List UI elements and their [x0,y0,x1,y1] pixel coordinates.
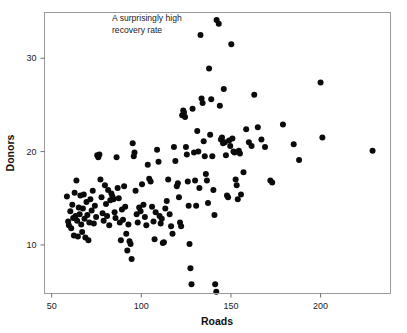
data-point [161,239,167,245]
data-point [106,222,112,228]
data-point [90,188,96,194]
data-point [262,144,268,150]
y-tick-label: 20 [26,147,36,157]
data-point [156,159,162,165]
data-point [165,177,171,183]
data-point [190,106,196,112]
data-point [154,147,160,153]
data-point [204,178,210,184]
plot-background [0,0,407,333]
data-point [178,223,184,229]
data-point [319,135,325,141]
data-point [183,144,189,150]
data-point [240,169,246,175]
data-point [112,209,118,215]
data-point [255,124,261,130]
data-point [291,141,297,147]
data-point [133,188,139,194]
data-point [97,177,103,183]
data-point [92,203,98,209]
data-point [122,204,128,210]
data-point [206,66,212,72]
data-point [196,185,202,191]
data-point [112,215,118,221]
data-point [176,194,182,200]
data-point [129,256,135,262]
data-point [168,223,174,229]
data-point [140,202,146,208]
y-axis-title: Donors [4,134,16,171]
data-point [78,221,84,227]
data-point [243,126,249,132]
data-point [84,212,90,218]
data-point [228,41,234,47]
data-point [67,208,73,214]
data-point [152,236,158,242]
data-point [189,281,195,287]
data-point [212,281,218,287]
data-point [93,214,99,220]
data-point [186,203,192,209]
data-point [85,237,91,243]
data-point [120,217,126,223]
data-point [118,237,124,243]
x-tick-label: 200 [313,301,328,311]
data-point [159,216,165,222]
data-point [229,136,235,142]
annotation-line-2: recovery rate [112,25,162,35]
data-point [130,140,136,146]
data-point [280,122,286,128]
data-point [138,208,144,214]
data-point [139,181,145,187]
data-point [192,178,198,184]
data-point [145,162,151,168]
data-point [211,212,217,218]
data-point [128,241,134,247]
x-tick-label: 150 [223,301,238,311]
data-point [171,144,177,150]
data-point [149,204,155,210]
data-point [209,153,215,159]
x-tick-label: 50 [47,301,57,311]
data-point [238,192,244,198]
data-point [148,178,154,184]
data-point [99,194,105,200]
y-tick-label: 10 [26,240,36,250]
data-point [195,149,201,155]
data-point [237,150,243,156]
data-point [182,114,188,120]
data-point [233,177,239,183]
data-point [175,180,181,186]
data-point [80,206,86,212]
data-point [164,198,170,204]
data-point [184,151,190,157]
data-point [203,171,209,177]
data-point [91,220,97,226]
data-point [114,154,120,160]
data-point [69,202,75,208]
data-point [221,86,227,92]
data-point [125,221,131,227]
data-point [162,206,168,212]
data-point [143,222,149,228]
x-tick-label: 100 [134,301,149,311]
data-point [68,225,74,231]
data-point [234,182,240,188]
data-point [87,196,93,202]
scatter-chart-figure: 50100150200 102030 Roads Donors A surpri… [0,0,407,333]
y-tick-label: 30 [26,53,36,63]
x-axis-title: Roads [201,315,233,327]
data-point [210,187,216,193]
data-point [251,92,257,98]
data-point [116,195,122,201]
data-point [115,185,121,191]
data-point [370,148,376,154]
data-point [73,178,79,184]
data-point [72,190,78,196]
annotation-line-1: A surprisingly high [112,13,182,23]
data-point [201,138,207,144]
data-point [185,178,191,184]
data-point [202,153,208,159]
data-point [223,152,229,158]
data-point [135,220,141,226]
